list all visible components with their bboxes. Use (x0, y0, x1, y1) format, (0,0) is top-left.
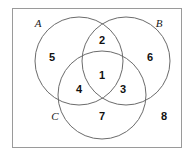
region-number-a-only: 5 (49, 51, 55, 63)
venn-diagram-container: A B C 1 2 3 4 5 6 7 8 (0, 0, 194, 157)
venn-diagram-svg: A B C 1 2 3 4 5 6 7 8 (0, 0, 194, 157)
region-number-abc: 1 (99, 69, 105, 81)
region-number-bc: 3 (120, 83, 126, 95)
region-number-b-only: 6 (147, 51, 153, 63)
region-number-ab: 2 (99, 34, 105, 46)
region-number-ac: 4 (76, 83, 83, 95)
set-label-b: B (156, 17, 163, 29)
region-number-outside: 8 (161, 110, 167, 122)
region-number-c-only: 7 (99, 110, 105, 122)
set-label-c: C (51, 110, 59, 122)
set-label-a: A (34, 17, 42, 29)
